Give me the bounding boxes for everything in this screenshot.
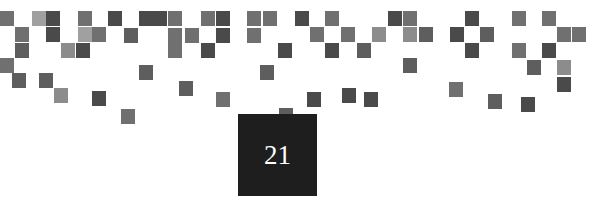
pixel-square <box>325 43 339 58</box>
pixel-square <box>278 43 292 58</box>
pixel-square <box>342 88 356 103</box>
chapter-number: 21 <box>264 140 291 171</box>
pixel-square <box>201 11 215 26</box>
pixel-square <box>139 65 153 80</box>
pixel-square <box>542 11 556 26</box>
pixel-square <box>480 27 494 42</box>
pixel-square <box>403 11 417 26</box>
pixel-square <box>124 28 138 43</box>
pixel-square <box>54 88 68 103</box>
pixel-square <box>542 43 556 58</box>
pixel-square <box>488 94 502 109</box>
pixel-square <box>92 27 106 42</box>
pixel-square <box>32 11 46 26</box>
pixel-square <box>247 11 261 26</box>
pixel-square <box>341 27 355 42</box>
pixel-square <box>403 27 417 42</box>
pixel-square <box>78 27 92 42</box>
pixel-square <box>168 11 182 26</box>
pixel-square <box>216 11 230 26</box>
pixel-square <box>325 11 339 26</box>
chapter-number-box: 21 <box>238 114 317 196</box>
pixel-square <box>388 11 402 26</box>
pixel-square <box>168 43 182 58</box>
pixel-square <box>449 82 463 97</box>
pixel-square <box>12 73 26 88</box>
pixel-square <box>15 27 29 42</box>
pixel-square <box>512 43 526 58</box>
pixel-square <box>557 27 571 42</box>
pixel-square <box>557 77 571 92</box>
pixel-square <box>364 92 378 107</box>
pixel-square <box>92 91 106 106</box>
pixel-square <box>15 43 29 58</box>
pixel-square <box>419 27 433 42</box>
pixel-square <box>512 11 526 26</box>
pixel-square <box>46 11 60 26</box>
pixel-square <box>121 109 135 124</box>
pixel-square <box>263 11 277 26</box>
pixel-square <box>295 11 309 26</box>
pixel-square <box>179 81 193 96</box>
pixel-square <box>0 11 14 26</box>
pixel-square <box>403 58 417 73</box>
pixel-square <box>372 27 386 42</box>
pixel-square <box>46 27 60 42</box>
pixel-square <box>108 11 122 26</box>
pixel-square <box>0 58 14 73</box>
pixel-square <box>527 60 541 75</box>
pixel-square <box>216 28 230 43</box>
pixel-square <box>572 27 586 42</box>
pixel-square <box>357 43 371 58</box>
pixel-square <box>310 27 324 42</box>
pixel-square <box>557 60 571 75</box>
pixel-square <box>168 28 182 43</box>
pixel-square <box>76 43 90 58</box>
pixel-square <box>201 43 215 58</box>
pixel-square <box>185 28 199 43</box>
pixel-square <box>521 97 535 112</box>
pixel-square <box>139 11 153 26</box>
pixel-square <box>78 11 92 26</box>
pixel-square <box>39 73 53 88</box>
pixel-square <box>247 28 261 43</box>
pixel-square <box>465 43 479 58</box>
pixel-square <box>153 11 167 26</box>
pixel-square <box>216 92 230 107</box>
pixel-square <box>61 43 75 58</box>
pixel-square <box>260 65 274 80</box>
pixel-square <box>465 11 479 26</box>
pixel-square <box>450 27 464 42</box>
pixel-square <box>307 92 321 107</box>
